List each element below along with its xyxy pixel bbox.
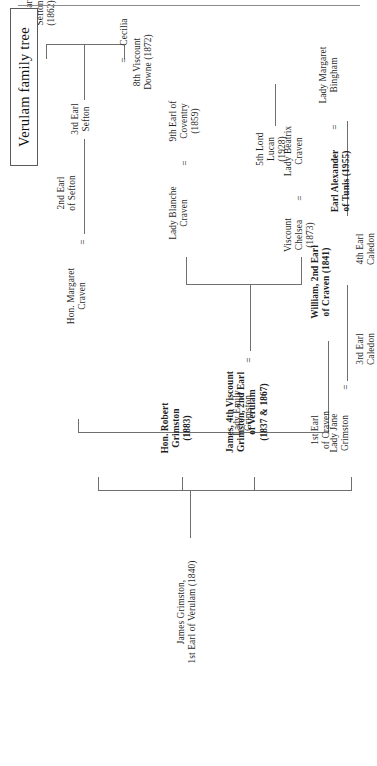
connector-lucan-link (275, 84, 276, 126)
node-fifth-lord-lucan: 5th Lord Lucan (1928) (255, 122, 289, 176)
node-first-earl-craven-line1: 1st Earl (310, 384, 321, 476)
connector-sefton-children-bracket (46, 44, 124, 45)
node-third-earl-sefton-line1: 3rd Earl (70, 97, 81, 141)
node-bingham-line1: Lady Margaret (318, 29, 329, 121)
node-james4-line3: of Verulam (247, 349, 258, 475)
node-earl-alexander-of-tunis: Earl Alexander of Tunis (1955) (330, 126, 352, 236)
connector-verulam-child-emily (98, 477, 99, 491)
marriage-equals-margaret: = (78, 236, 89, 248)
node-lady-margaret-bingham: Lady Margaret Bingham (318, 29, 340, 121)
connector-verulam-stem (190, 491, 191, 538)
node-ninth-earl-coventry: 9th Earl of Coventry (1859) (168, 85, 202, 157)
node-robert-line2: Grimston (171, 383, 182, 473)
node-hon-margaret-craven: Hon. Margaret Craven (66, 246, 88, 346)
connector-emily-william-stem (250, 285, 251, 351)
marriage-equals-chelsea: = (295, 192, 306, 204)
node-beatrix-line2: Craven (294, 110, 305, 192)
node-hon-robert-grimston: Hon. Robert Grimston (1883) (160, 383, 194, 473)
page-top-rule (18, 5, 360, 6)
node-fourth-caledon-line2: Caledon (366, 219, 377, 279)
node-coventry-line2: Coventry (179, 85, 190, 157)
marriage-equals-alexander: = (330, 121, 341, 133)
node-chelsea-line1: Viscount (283, 204, 294, 266)
connector-verulam-child-jane (351, 477, 352, 491)
node-alexander-line2: of Tunis (1955) (341, 126, 352, 236)
marriage-equals-jane: = (341, 381, 352, 393)
node-coventry-line1: 9th Earl of (168, 85, 179, 157)
node-hon-margaret-line1: Hon. Margaret (66, 246, 77, 346)
connector-sefton-children-stem (84, 45, 85, 100)
node-chelsea-line2: Chelsea (294, 204, 305, 266)
node-james4-line1: James, 4th Viscount (225, 349, 236, 475)
node-lady-blanche-craven: Lady Blanche Craven (168, 169, 190, 257)
node-james4-line2: Grimston, 2nd Earl (236, 349, 247, 475)
node-blanche-line2: Craven (179, 169, 190, 257)
node-lady-jane-line1: Lady Jane (329, 393, 340, 473)
node-cecilia: Cecilia (119, 11, 130, 53)
node-james-grimston-first-earl: James Grimston, 1st Earl of Verulam (184… (176, 538, 198, 686)
node-eighth-viscount-downe: 8th Viscount Downe (1872) (132, 18, 154, 106)
connector-craven-children-bracket (186, 284, 301, 285)
node-lady-jane-line2: Grimston (340, 393, 351, 473)
node-coventry-line3: (1859) (190, 85, 201, 157)
node-third-caledon-line1: 3rd Earl (355, 317, 366, 381)
node-alexander-line1: Earl Alexander (330, 126, 341, 236)
connector-caledon-descent (347, 285, 348, 381)
node-fourth-caledon-line1: 4th Earl (355, 219, 366, 279)
node-downe-line2: Downe (1872) (143, 18, 154, 106)
node-third-earl-caledon: 3rd Earl Caledon (355, 317, 377, 381)
node-third-earl-sefton: 3rd Earl Sefton (70, 97, 92, 141)
node-third-earl-sefton-line2: Sefton (81, 97, 92, 141)
node-viscount-chelsea: Viscount Chelsea (1873) (283, 204, 317, 266)
connector-verulam-children-bracket (98, 490, 351, 491)
node-james-grimston-line1: James Grimston, (176, 538, 187, 686)
connector-craven-child-blanche (186, 257, 187, 285)
node-james4-line4: (1837 & 1867) (259, 349, 270, 475)
node-fourth-earl-caledon: 4th Earl Caledon (355, 219, 377, 279)
node-lucan-line1: 5th Lord (255, 122, 266, 176)
node-lady-jane-grimston: Lady Jane Grimston (329, 393, 351, 473)
connector-verulam-child-robert (182, 477, 183, 491)
marriage-equals-blanche: = (180, 157, 191, 169)
node-lucan-line3: (1928) (277, 122, 288, 176)
node-bingham-line2: Bingham (329, 29, 340, 121)
connector-verulam-child-james (254, 477, 255, 491)
node-second-earl-sefton-line1: 2nd Earl (56, 152, 67, 234)
connector-sefton-child-top (46, 45, 47, 59)
chart-title-label: Verulam family tree (16, 27, 33, 147)
node-second-earl-sefton: 2nd Earl of Sefton (56, 152, 78, 234)
node-chelsea-line3: (1873) (305, 204, 316, 266)
node-lucan-line2: Lucan (266, 122, 277, 176)
node-blanche-line1: Lady Blanche (168, 169, 179, 257)
node-robert-line1: Hon. Robert (160, 383, 171, 473)
connector-sefton-descent (84, 139, 85, 234)
node-second-earl-sefton-line2: of Sefton (67, 152, 78, 234)
node-robert-line3: (1883) (182, 383, 193, 473)
node-william-line2: of Craven (1841) (321, 223, 332, 341)
node-james-fourth-viscount: James, 4th Viscount Grimston, 2nd Earl o… (225, 349, 270, 475)
node-hon-margaret-line2: Craven (77, 246, 88, 346)
connector-craven-bracket-top (78, 419, 79, 433)
node-downe-line1: 8th Viscount (132, 18, 143, 106)
connector-craven-bracket-vertical (78, 432, 328, 433)
node-cecilia-line1: Cecilia (119, 11, 130, 53)
marriage-equals-cecilia: = (119, 54, 130, 66)
node-third-caledon-line2: Caledon (366, 317, 377, 381)
node-james-grimston-line2: 1st Earl of Verulam (1840) (187, 538, 198, 686)
chart-title-box: Verulam family tree (10, 8, 38, 166)
